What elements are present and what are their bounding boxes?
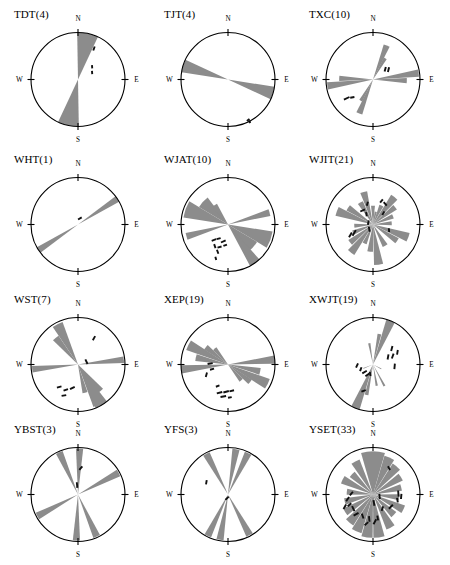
data-marker — [217, 238, 221, 239]
cardinal-label-e: E — [284, 221, 289, 229]
marker-group — [206, 363, 234, 398]
data-marker — [206, 373, 207, 378]
rose-panel-wst: WST(7)NESW — [0, 285, 150, 415]
data-marker — [93, 46, 94, 50]
cardinal-label-e: E — [429, 491, 434, 499]
data-marker — [369, 227, 370, 232]
cardinal-label-n: N — [370, 15, 376, 23]
data-marker — [350, 97, 354, 98]
panel-title: WJAT(10) — [164, 153, 211, 165]
panel-title: TDT(4) — [14, 8, 49, 20]
rose-petal — [203, 452, 228, 494]
rose-panel-xep: XEP(19)NESW — [150, 285, 295, 415]
data-marker — [214, 244, 215, 248]
panel-title: WST(7) — [14, 293, 51, 305]
rose-petal — [351, 365, 373, 410]
data-marker — [373, 500, 374, 506]
rose-petal — [228, 80, 274, 100]
cardinal-label-n: N — [75, 160, 81, 168]
data-marker — [210, 369, 214, 370]
rose-plot: NESW — [295, 285, 445, 430]
rose-petal — [228, 209, 270, 224]
petal-group — [203, 449, 253, 541]
data-marker — [380, 199, 383, 202]
petal-group — [32, 322, 124, 408]
rose-plot: NESW — [150, 145, 300, 290]
data-marker — [368, 220, 369, 225]
cardinal-label-s: S — [76, 136, 80, 144]
cardinal-label-s: S — [226, 551, 230, 559]
data-marker — [392, 354, 394, 359]
cardinal-label-n: N — [75, 300, 81, 308]
data-marker — [366, 212, 367, 216]
cardinal-label-e: E — [284, 76, 289, 84]
panel-title: YSET(33) — [309, 423, 356, 435]
panel-title: YBST(3) — [14, 423, 56, 435]
cardinal-label-s: S — [76, 551, 80, 559]
cardinal-label-e: E — [134, 76, 139, 84]
rose-petal — [373, 70, 419, 80]
data-marker — [77, 482, 78, 488]
data-marker — [397, 350, 398, 355]
rose-plot: NESW — [295, 415, 445, 560]
rose-petal — [182, 60, 228, 80]
petal-group — [58, 33, 98, 127]
cardinal-label-w: W — [166, 491, 173, 499]
marker-group — [212, 238, 227, 260]
cardinal-label-n: N — [225, 160, 231, 168]
data-marker — [221, 396, 227, 397]
data-marker — [349, 232, 352, 237]
data-marker — [384, 202, 387, 206]
panel-title: WJIT(21) — [309, 153, 353, 165]
marker-group — [78, 217, 82, 219]
cardinal-label-n: N — [225, 300, 231, 308]
data-marker — [367, 202, 368, 206]
data-marker — [377, 516, 378, 521]
cardinal-label-e: E — [429, 361, 434, 369]
cardinal-label-w: W — [16, 221, 23, 229]
cardinal-label-n: N — [225, 430, 231, 438]
panel-title: XEP(19) — [164, 293, 204, 305]
data-marker — [228, 397, 232, 398]
rose-plot: NESW — [0, 285, 150, 430]
data-marker — [217, 250, 218, 254]
data-marker — [398, 491, 399, 497]
cardinal-label-w: W — [166, 76, 173, 84]
data-marker — [229, 390, 234, 391]
rose-panel-tdt: TDT(4)NESW — [0, 0, 150, 145]
cardinal-label-w: W — [16, 361, 23, 369]
cardinal-label-n: N — [225, 15, 231, 23]
rose-petal — [37, 225, 78, 253]
rose-plot: NESW — [295, 145, 445, 290]
data-marker — [57, 386, 62, 387]
data-marker — [369, 516, 370, 522]
rose-panel-ybst: YBST(3)NESW — [0, 415, 150, 565]
data-marker — [223, 391, 228, 392]
cardinal-label-e: E — [284, 491, 289, 499]
data-marker — [221, 240, 226, 242]
rose-petal — [228, 495, 253, 537]
rose-panel-yfs: YFS(3)NESW — [150, 415, 295, 565]
rose-plot: NESW — [295, 0, 445, 145]
panel-title: TXC(10) — [309, 8, 350, 20]
rose-petal — [78, 470, 120, 495]
cardinal-label-w: W — [311, 491, 318, 499]
data-marker — [216, 385, 220, 386]
rose-petal — [58, 80, 79, 127]
petal-group — [327, 44, 419, 114]
data-marker — [206, 480, 207, 484]
rose-panel-yset: YSET(33)NESW — [295, 415, 450, 565]
rose-petal — [356, 80, 373, 115]
rose-petal — [56, 451, 78, 494]
data-marker — [370, 372, 371, 376]
data-marker — [360, 367, 361, 371]
data-marker — [388, 354, 389, 359]
rose-petal — [32, 365, 78, 373]
cardinal-label-e: E — [134, 221, 139, 229]
data-marker — [70, 387, 75, 389]
cardinal-label-e: E — [284, 361, 289, 369]
rose-plot: NESW — [0, 145, 150, 290]
rose-plot: NESW — [0, 0, 150, 145]
panel-title: XWJT(19) — [309, 293, 357, 305]
data-marker — [397, 498, 398, 503]
